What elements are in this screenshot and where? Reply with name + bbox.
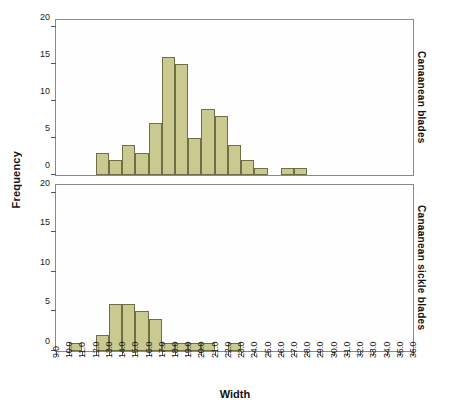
y-axis-tick-label: 0 [45,160,50,170]
x-axis-tick-label: 35.0 [395,342,405,358]
x-axis-tick-label: 25.0 [263,342,273,358]
y-axis-tick [51,271,56,272]
x-axis-tick-label: 12.0 [91,342,101,358]
x-axis-tick-label: 26.0 [276,342,286,358]
plot-area-top: 05101520 [56,20,413,175]
x-axis-tick-label: 14.0 [117,342,127,358]
y-axis-tick-label: 10 [40,257,50,267]
histogram-bar [294,168,307,175]
y-axis-tick-label: 10 [40,86,50,96]
x-axis-title: Width [55,388,415,400]
y-axis-tick-label: 20 [40,12,50,22]
y-axis-tick [51,310,56,311]
histogram-bar [201,109,214,175]
histogram-bar [96,153,109,175]
histogram-figure: Frequency 05101520 051015209.010.011.012… [0,0,465,413]
panel-strip-label-bottom-text: Canaanean sickle blades [416,205,427,330]
x-axis-tick-label: 32.0 [355,342,365,358]
x-axis-tick-label: 27.0 [289,342,299,358]
x-axis-tick-label: 28.0 [302,342,312,358]
x-axis-tick-label: 31.0 [342,342,352,358]
y-axis-tick [51,192,56,193]
x-axis-tick-label: 29.0 [315,342,325,358]
x-axis-tick-label: 18.0 [170,342,180,358]
x-axis-tick-label: 23.0 [236,342,246,358]
y-axis-tick-label: 15 [40,217,50,227]
x-axis-tick-label: 11.0 [77,342,87,358]
histogram-bar [135,153,148,175]
y-axis-title-text: Frequency [10,151,22,208]
x-axis-tick-label: 19.0 [183,342,193,358]
y-axis-tick-label: 20 [40,178,50,188]
plot-area-bottom: 051015209.010.011.012.013.014.015.016.01… [56,185,413,351]
y-axis-tick-label: 15 [40,49,50,59]
x-axis-tick-label: 20.0 [196,342,206,358]
panel-strip-label-bottom: Canaanean sickle blades [416,184,462,352]
x-axis-tick-label: 33.0 [368,342,378,358]
x-axis-tick-label: 10.0 [64,342,74,358]
x-axis-tick-label: 30.0 [329,342,339,358]
x-axis-tick-label: 24.0 [249,342,259,358]
x-axis-tick-label: 13.0 [104,342,114,358]
y-axis-tick [51,63,56,64]
x-axis-tick-label: 15.0 [130,342,140,358]
histogram-bar [162,57,175,175]
panel-canaanean-sickle-blades: 051015209.010.011.012.013.014.015.016.01… [55,184,414,352]
y-axis-tick [51,174,56,175]
y-axis-tick [51,26,56,27]
y-axis-tick-label: 5 [45,296,50,306]
x-axis-tick-label: 21.0 [210,342,220,358]
y-axis-tick [51,100,56,101]
histogram-bar [109,160,122,175]
histogram-bar [254,168,267,175]
histogram-bar [122,145,135,175]
x-axis-tick-label: 16.0 [144,342,154,358]
histogram-bar [175,64,188,175]
y-axis-tick [51,231,56,232]
y-axis-tick-label: 5 [45,123,50,133]
histogram-bar [241,160,254,175]
panel-strip-label-top: Canaanean blades [416,19,462,176]
panel-strip-label-top-text: Canaanean blades [416,51,427,144]
histogram-bar [215,116,228,175]
x-axis-tick-label: 22.0 [223,342,233,358]
x-axis-tick-label: 9.0 [51,346,61,358]
histogram-bar [149,123,162,175]
x-axis-tick-label: 34.0 [382,342,392,358]
y-axis-title: Frequency [8,0,24,360]
panel-canaanean-blades: 05101520 [55,19,414,176]
y-axis-tick-label: 0 [45,336,50,346]
histogram-bar [228,145,241,175]
y-axis-tick [51,137,56,138]
histogram-bar [188,138,201,175]
histogram-bar [281,168,294,175]
x-axis-tick-label: 17.0 [157,342,167,358]
